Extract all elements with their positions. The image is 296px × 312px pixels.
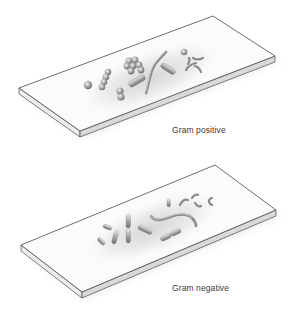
slide-gram-positive bbox=[19, 16, 279, 139]
caption-gram-negative: Gram negative bbox=[172, 283, 229, 293]
slide-gram-negative bbox=[21, 165, 280, 300]
bacillus-icon bbox=[167, 199, 171, 207]
caption-gram-positive: Gram positive bbox=[172, 125, 226, 135]
gram-stain-illustration bbox=[0, 0, 296, 312]
coccus-icon bbox=[84, 81, 92, 89]
coccus-icon bbox=[181, 49, 188, 56]
